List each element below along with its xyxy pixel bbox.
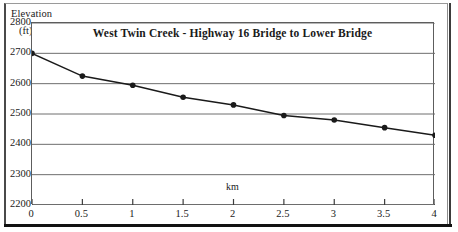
x-axis-tick-label: 1.5 xyxy=(169,208,195,219)
x-axis-tick-label: 0 xyxy=(18,208,44,219)
chart-figure: Elevation (ft) West Twin Creek - Highway… xyxy=(0,0,458,232)
gridlines xyxy=(32,23,435,175)
figure-bottom-border xyxy=(4,224,452,227)
y-axis-tick-label: 2500 xyxy=(1,108,31,118)
figure-right-border xyxy=(449,3,451,227)
data-point-markers xyxy=(32,51,435,138)
x-axis-tick-label: 1 xyxy=(119,208,145,219)
plot-area xyxy=(31,22,434,204)
y-axis-tick-label: 2600 xyxy=(1,78,31,88)
chart-canvas xyxy=(32,23,435,205)
y-axis-tick-label: 2300 xyxy=(1,169,31,179)
y-axis-tick-label: 2700 xyxy=(1,47,31,57)
y-axis-tick-label: 2800 xyxy=(1,17,31,27)
chart-title: West Twin Creek - Highway 16 Bridge to L… xyxy=(31,27,434,39)
x-axis-tick-label: 3 xyxy=(320,208,346,219)
x-axis-tick-marks xyxy=(32,199,435,205)
y-axis-tick-label: 2400 xyxy=(1,138,31,148)
x-axis-tick-label: 4 xyxy=(421,208,447,219)
data-line xyxy=(32,53,435,135)
x-axis-tick-label: 0.5 xyxy=(68,208,94,219)
x-axis-label: km xyxy=(31,181,434,192)
x-axis-tick-label: 2 xyxy=(220,208,246,219)
x-axis-tick-label: 2.5 xyxy=(270,208,296,219)
x-axis-tick-label: 3.5 xyxy=(371,208,397,219)
y-axis-tick-labels: 2800270026002500240023002200 xyxy=(0,0,31,232)
